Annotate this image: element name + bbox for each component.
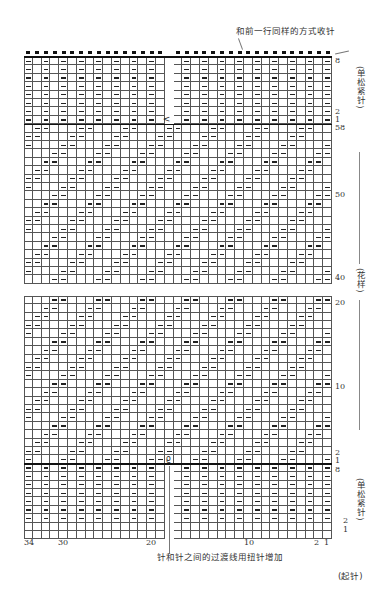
purl-symbol — [246, 187, 251, 188]
grid-cell — [244, 481, 253, 489]
grid-cell — [130, 149, 139, 157]
grid-cell — [112, 233, 121, 241]
purl-symbol — [70, 409, 75, 410]
purl-symbol — [299, 451, 304, 452]
grid-cell — [314, 57, 323, 65]
grid-cell — [191, 200, 200, 208]
purl-symbol — [26, 262, 31, 263]
purl-symbol — [308, 203, 313, 204]
grid-cell — [262, 191, 271, 199]
grid-cell — [59, 158, 68, 166]
purl-symbol — [255, 170, 260, 171]
purl-symbol — [272, 383, 277, 384]
purl-symbol — [211, 170, 216, 171]
grid-cell — [323, 133, 332, 141]
purl-symbol — [26, 136, 31, 137]
purl-symbol — [149, 518, 154, 519]
grid-cell — [165, 183, 174, 191]
purl-symbol — [237, 229, 242, 230]
grid-cell — [218, 275, 227, 283]
grid-cell — [191, 489, 200, 497]
grid-cell — [218, 149, 227, 157]
purl-symbol — [272, 493, 277, 494]
grid-cell — [323, 259, 332, 267]
grid-cell — [165, 233, 174, 241]
grid-cell — [24, 191, 33, 199]
grid-cell — [226, 82, 235, 90]
purl-symbol — [299, 316, 304, 317]
purl-symbol — [123, 358, 128, 359]
grid-cell — [218, 363, 227, 371]
purl-symbol — [35, 220, 40, 221]
grid-cell — [218, 225, 227, 233]
purl-symbol — [184, 245, 189, 246]
purl-symbol — [140, 299, 145, 300]
grid-cell — [253, 346, 262, 354]
purl-symbol — [308, 493, 313, 494]
purl-symbol — [167, 262, 172, 263]
grid-cell — [174, 514, 183, 522]
purl-symbol — [299, 212, 304, 213]
grid-cell — [138, 133, 147, 141]
grid-cell — [94, 225, 103, 233]
grid-cell — [130, 296, 139, 304]
grid-cell — [288, 439, 297, 447]
purl-symbol — [44, 518, 49, 519]
purl-symbol — [26, 119, 31, 120]
grid-cell — [209, 158, 218, 166]
purl-symbol — [272, 484, 277, 485]
purl-symbol — [299, 136, 304, 137]
grid-cell — [226, 397, 235, 405]
grid-cell — [262, 472, 271, 480]
purl-symbol — [299, 400, 304, 401]
purl-symbol — [255, 220, 260, 221]
grid-cell — [156, 472, 165, 480]
purl-symbol — [316, 161, 321, 162]
grid-cell — [165, 413, 174, 421]
grid-cell — [279, 531, 288, 539]
purl-symbol — [237, 145, 242, 146]
grid-cell — [59, 439, 68, 447]
purl-symbol — [88, 442, 93, 443]
purl-symbol — [61, 341, 66, 342]
purl-symbol — [44, 442, 49, 443]
purl-symbol — [114, 509, 119, 510]
purl-symbol — [132, 476, 137, 477]
grid-cell — [50, 439, 59, 447]
purl-symbol — [184, 77, 189, 78]
purl-symbol — [228, 195, 233, 196]
purl-symbol — [202, 501, 207, 502]
bind-off-icon — [246, 51, 250, 54]
grid-cell — [50, 74, 59, 82]
grid-cell — [112, 338, 121, 346]
purl-symbol — [220, 350, 225, 351]
grid-cell — [270, 397, 279, 405]
purl-symbol — [255, 518, 260, 519]
purl-symbol — [61, 103, 66, 104]
grid-cell — [50, 355, 59, 363]
purl-symbol — [325, 111, 330, 112]
purl-symbol — [44, 509, 49, 510]
bind-off-icon — [185, 51, 189, 54]
grid-cell — [121, 158, 130, 166]
purl-symbol — [281, 153, 286, 154]
purl-symbol — [176, 392, 181, 393]
grid-cell — [94, 166, 103, 174]
purl-symbol — [308, 392, 313, 393]
grid-cell — [130, 217, 139, 225]
purl-symbol — [184, 501, 189, 502]
row-label-bottom-2: 2 — [343, 517, 348, 525]
rib-label-bottom-text: (单松紧针) — [354, 478, 365, 521]
purl-symbol — [255, 119, 260, 120]
grid-cell — [112, 275, 121, 283]
purl-symbol — [272, 69, 277, 70]
grid-cell — [209, 74, 218, 82]
grid-cell — [279, 304, 288, 312]
grid-cell — [68, 506, 77, 514]
grid-cell — [209, 523, 218, 531]
purl-symbol — [167, 220, 172, 221]
purl-symbol — [105, 383, 110, 384]
purl-symbol — [123, 178, 128, 179]
purl-symbol — [114, 375, 119, 376]
purl-symbol — [149, 333, 154, 334]
